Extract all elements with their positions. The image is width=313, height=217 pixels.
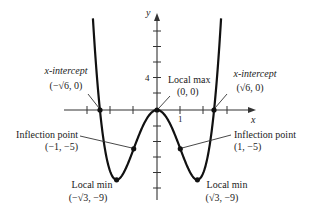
inflection-right-dot <box>178 146 183 151</box>
x-axis: 1 x <box>64 106 256 125</box>
x-intercept-left-coords: (−√6, 0) <box>50 80 83 92</box>
annotation-inflection-right: Inflection point (1, −5) <box>234 129 296 153</box>
x-axis-label: x <box>250 114 256 125</box>
annotation-local-min-left: Local min (−√3, −9) <box>69 179 113 204</box>
annotation-local-min-right: Local min (√3, −9) <box>206 179 248 204</box>
inflection-left-dot <box>131 146 136 151</box>
local-max-coords: (0, 0) <box>177 86 199 98</box>
annotation-x-intercept-right: x-intercept (√6, 0) <box>233 68 277 94</box>
inflection-left-coords: (−1, −5) <box>45 141 78 153</box>
local-max-dot <box>154 107 159 112</box>
y-tick-label: 4 <box>145 73 150 83</box>
local-min-left-coords: (−√3, −9) <box>69 192 107 204</box>
local-min-left-title: Local min <box>72 179 113 190</box>
annotation-local-max: Local max (0, 0) <box>168 74 210 98</box>
annotation-x-intercept-left: x-intercept (−√6, 0) <box>44 65 88 92</box>
inflection-left-title: Inflection point <box>16 129 78 140</box>
x-intercept-right-dot <box>211 107 216 112</box>
function-graph: 1 x 4 y <box>0 0 313 217</box>
local-min-right-coords: (√3, −9) <box>206 192 239 204</box>
y-axis-label: y <box>145 7 151 18</box>
x-intercept-left-title: x-intercept <box>44 65 88 76</box>
inflection-right-coords: (1, −5) <box>234 141 261 153</box>
local-max-title: Local max <box>168 74 210 85</box>
local-min-right-title: Local min <box>207 179 248 190</box>
x-intercept-right-coords: (√6, 0) <box>236 82 263 94</box>
x-tick-label: 1 <box>178 114 183 124</box>
y-axis-arrow-icon <box>154 13 160 21</box>
x-intercept-left-dot <box>97 107 102 112</box>
inflection-right-title: Inflection point <box>234 129 296 140</box>
x-axis-arrow-icon <box>248 107 256 113</box>
annotation-inflection-left: Inflection point (−1, −5) <box>16 129 78 153</box>
y-axis: 4 y <box>145 7 161 200</box>
local-min-right-dot <box>195 177 200 182</box>
local-min-left-dot <box>114 177 119 182</box>
x-intercept-right-title: x-intercept <box>233 68 277 79</box>
